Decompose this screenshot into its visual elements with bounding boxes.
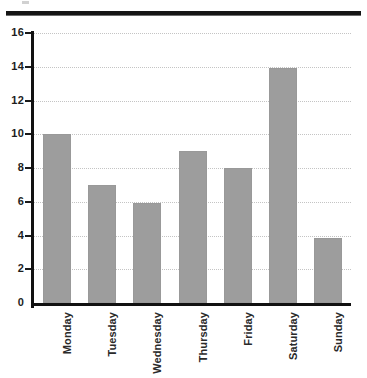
- x-axis-category-label: Wednesday: [152, 312, 163, 374]
- y-axis-tick-label: 6: [0, 196, 24, 207]
- y-axis-tick-label: 12: [0, 95, 24, 106]
- bar-chart-figure: 0246810121416 MondayTuesdayWednesdayThur…: [0, 0, 367, 378]
- x-axis-category-label-text: Monday: [62, 312, 73, 354]
- x-axis-category-label: Friday: [243, 312, 254, 346]
- x-axis-category-label-text: Wednesday: [152, 312, 163, 374]
- bar: [43, 134, 71, 303]
- y-axis-tick-label: 0: [0, 297, 24, 308]
- x-axis-category-label: Monday: [62, 312, 73, 354]
- x-axis-category-label: Thursday: [198, 312, 209, 362]
- gridline: [34, 101, 351, 102]
- y-axis-tick-label: 4: [0, 230, 24, 241]
- bar: [88, 185, 116, 303]
- gridline: [34, 134, 351, 135]
- x-axis-category-label: Saturday: [288, 312, 299, 360]
- x-axis-category-label-text: Saturday: [288, 312, 299, 360]
- y-axis-tick-label: 16: [0, 27, 24, 38]
- x-axis-category-label: Sunday: [333, 312, 344, 352]
- bar: [269, 68, 297, 303]
- y-axis-tick-label: 8: [0, 162, 24, 173]
- y-axis-tick-label: 2: [0, 263, 24, 274]
- y-axis-tick-label: 14: [0, 61, 24, 72]
- x-axis-category-label-text: Sunday: [333, 312, 344, 352]
- x-axis-category-label-text: Thursday: [198, 312, 209, 362]
- y-axis-spine: [31, 31, 34, 308]
- x-axis-category-label-text: Friday: [243, 312, 254, 346]
- gridline: [34, 67, 351, 68]
- gridline: [34, 33, 351, 34]
- bar: [314, 238, 342, 303]
- bar: [133, 203, 161, 303]
- y-axis-tick-label: 10: [0, 128, 24, 139]
- x-axis-category-label: Tuesday: [107, 312, 118, 357]
- bar: [179, 151, 207, 303]
- bar: [224, 168, 252, 303]
- x-axis-baseline: [31, 303, 351, 306]
- plot-area: 0246810121416 MondayTuesdayWednesdayThur…: [0, 0, 367, 378]
- x-axis-category-label-text: Tuesday: [107, 312, 118, 357]
